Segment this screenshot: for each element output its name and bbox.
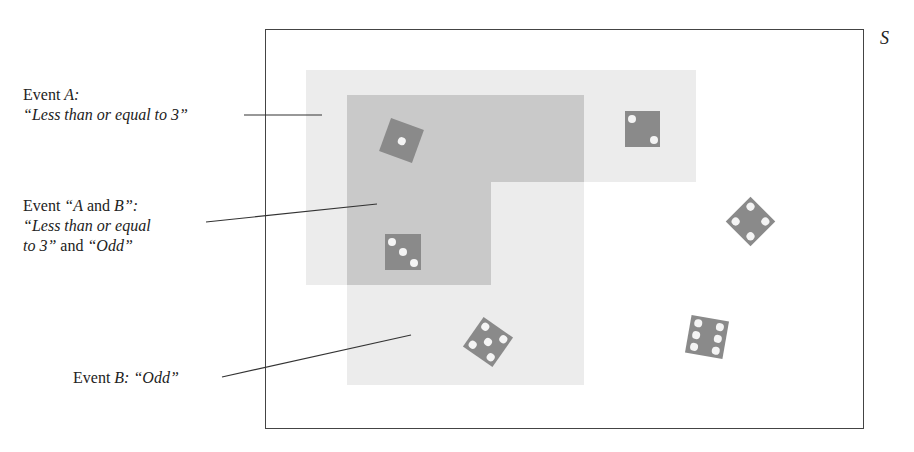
event-a-description: “Less than or equal to 3” [23, 106, 188, 123]
event-ab-var-a: “A [64, 197, 83, 214]
event-a-label: Event A: “Less than or equal to 3” [23, 85, 188, 125]
leader-line-event-ab [206, 204, 377, 222]
event-a-and-b-label: Event “A and B”: “Less than or equal to … [23, 196, 151, 256]
event-a-variable: A: [64, 86, 79, 103]
leader-line-event-b [222, 335, 411, 377]
event-b-variable: B: [114, 369, 129, 386]
event-ab-and: and [83, 197, 114, 214]
event-b-prefix: Event [73, 369, 114, 386]
event-ab-and-2: and [56, 237, 87, 254]
event-ab-description-line1: “Less than or equal [23, 217, 151, 234]
event-ab-var-b: B”: [114, 197, 138, 214]
event-ab-description-line2: to 3” [23, 237, 56, 254]
event-ab-prefix: Event [23, 197, 64, 214]
event-b-label: Event B: “Odd” [73, 368, 179, 388]
event-a-prefix: Event [23, 86, 64, 103]
event-ab-odd: “Odd” [87, 237, 132, 254]
event-b-description: “Odd” [129, 369, 178, 386]
